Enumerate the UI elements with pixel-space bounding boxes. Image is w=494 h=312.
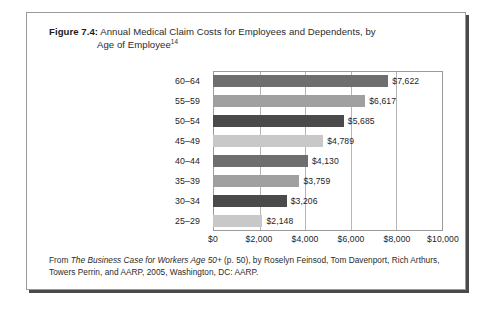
figure-title-line1: Annual Medical Claim Costs for Employees… <box>100 26 375 37</box>
y-axis-label: 60–64 <box>97 71 207 91</box>
figure-title-line2-wrap: Age of Employee14 <box>49 38 449 51</box>
source-prefix: From <box>49 255 71 265</box>
bar <box>213 155 308 168</box>
bar-row: $4,130 <box>213 151 443 171</box>
x-axis-tick-label: $4,000 <box>292 234 319 244</box>
bar-value-label: $2,148 <box>266 216 293 226</box>
figure-caption: Figure 7.4: Annual Medical Claim Costs f… <box>49 25 449 52</box>
bar <box>213 95 365 108</box>
bar-row: $5,685 <box>213 111 443 131</box>
bar-row: $4,789 <box>213 131 443 151</box>
bar <box>213 175 299 188</box>
bar-row: $7,622 <box>213 71 443 91</box>
x-axis-tick-label: $10,000 <box>427 234 459 244</box>
bar <box>213 195 287 208</box>
bar <box>213 115 344 128</box>
bar-row: $2,148 <box>213 211 443 231</box>
figure-label: Figure 7.4: <box>49 26 98 37</box>
figure-title-line2: Age of Employee <box>97 39 171 50</box>
source-note: From The Business Case for Workers Age 5… <box>49 255 445 278</box>
bar-value-label: $3,206 <box>291 196 318 206</box>
y-axis-label: 30–34 <box>97 191 207 211</box>
bar <box>213 135 323 148</box>
y-axis-category-labels: 60–6455–5950–5445–4940–4435–3930–3425–29 <box>97 71 207 231</box>
bar-value-label: $3,759 <box>303 176 330 186</box>
y-axis-label: 40–44 <box>97 151 207 171</box>
x-axis-tick-label: $2,000 <box>246 234 273 244</box>
x-axis-tick-label: $6,000 <box>338 234 365 244</box>
x-axis-tick-label: $0 <box>208 234 218 244</box>
bar-value-label: $5,685 <box>348 116 375 126</box>
bar-series: $7,622$6,617$5,685$4,789$4,130$3,759$3,2… <box>213 71 443 231</box>
y-axis-label: 45–49 <box>97 131 207 151</box>
x-axis-tick-label: $8,000 <box>384 234 411 244</box>
bar <box>213 215 262 228</box>
bar-value-label: $7,622 <box>392 76 419 86</box>
bar-row: $3,206 <box>213 191 443 211</box>
bar-value-label: $6,617 <box>369 96 396 106</box>
y-axis-label: 55–59 <box>97 91 207 111</box>
y-axis-label: 50–54 <box>97 111 207 131</box>
x-axis-tick-labels: $0$2,000$4,000$6,000$8,000$10,000 <box>213 234 443 248</box>
bar <box>213 75 388 88</box>
source-italic-title: The Business Case for Workers Age 50+ <box>71 255 222 265</box>
figure-footnote-marker: 14 <box>171 38 178 45</box>
bar-row: $3,759 <box>213 171 443 191</box>
figure-box: Figure 7.4: Annual Medical Claim Costs f… <box>26 12 466 290</box>
y-axis-label: 25–29 <box>97 211 207 231</box>
bar-value-label: $4,130 <box>312 156 339 166</box>
bar-value-label: $4,789 <box>327 136 354 146</box>
y-axis-label: 35–39 <box>97 171 207 191</box>
bar-row: $6,617 <box>213 91 443 111</box>
bar-chart: 60–6455–5950–5445–4940–4435–3930–3425–29… <box>97 59 447 251</box>
